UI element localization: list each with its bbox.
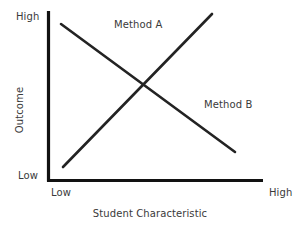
- series-label-method-a: Method A: [114, 19, 162, 31]
- chart-plot-area: [0, 0, 304, 229]
- series-label-method-b: Method B: [204, 99, 252, 111]
- series-line-method-b: [63, 14, 212, 167]
- chart-figure: High Low Outcome Low High Student Charac…: [0, 0, 304, 229]
- y-axis-tick-low: Low: [18, 170, 38, 182]
- y-axis-title: Outcome: [14, 76, 26, 144]
- x-axis-tick-low: Low: [51, 187, 71, 199]
- x-axis-tick-high: High: [269, 187, 292, 199]
- y-axis-tick-high: High: [16, 11, 39, 23]
- x-axis-title: Student Characteristic: [50, 208, 250, 220]
- series-line-method-a: [61, 24, 235, 152]
